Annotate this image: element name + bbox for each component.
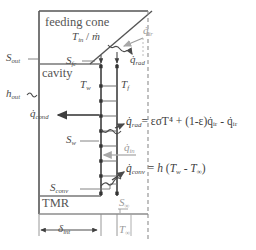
label-s-out-sub: out [12, 57, 21, 64]
label-q-in: q̇in [124, 142, 135, 153]
label-t-inf-sub: ∞ [125, 229, 130, 236]
equation-convection-lhs-sub: conv [132, 168, 145, 176]
label-q-ir: q̇ir [143, 25, 153, 36]
s-inf-leader [118, 209, 128, 213]
label-h-out-sub: out [12, 93, 21, 100]
label-q-rad-cone-sub: rad [136, 59, 145, 66]
label-s-inf-base: S [119, 196, 125, 208]
label-mass-flow-rate: ṁ [92, 30, 100, 42]
label-s-fc: Sfc [66, 55, 76, 66]
label-h-out: hout [6, 88, 20, 99]
label-q-in-base: q̇ [124, 141, 130, 153]
label-t-f: Tf [121, 79, 129, 90]
label-s-out: Sout [6, 52, 20, 63]
label-t-w-sub: w [86, 84, 90, 91]
q-rad-wall-squiggle [101, 124, 124, 134]
diagram-canvas: feeding cone cavity TMR Sout hout Tin / … [0, 0, 256, 250]
label-q-ir-base: q̇ [143, 24, 149, 36]
label-h-out-base: h [6, 87, 12, 99]
label-s-conv-sub: conv [56, 187, 69, 194]
q-conv-squiggle [101, 172, 124, 186]
label-delta-int-sub: int [63, 228, 70, 235]
equation-convection-lhs-base: q̇ [126, 162, 132, 174]
label-q-cond-base: q̇ [30, 107, 36, 119]
label-s-w-sub: w [72, 139, 76, 146]
label-t-w: Tw [80, 79, 91, 90]
label-t-f-sub: f [127, 84, 129, 91]
feeding-inflow-arrows [101, 52, 117, 63]
delta-int-dimension [39, 214, 131, 236]
label-q-in-sub: in [130, 147, 135, 154]
region-label-feeding-cone: feeding cone [45, 16, 109, 29]
equation-convection: q̇conv = h (Tw - T∞) [126, 163, 206, 175]
label-s-fc-sub: fc [72, 60, 77, 67]
equation-radiation: q̇rad= εσT⁴ + (1-ε)q̇ᵢᵣ - q̇ᵢᵣ [126, 116, 237, 128]
label-q-ir-sub: ir [149, 30, 153, 37]
label-q-rad-cone: q̇rad [130, 54, 145, 65]
label-delta-int: δint [58, 223, 70, 234]
label-t-in-separator: / [83, 30, 92, 42]
label-t-in-mdot: Tin / ṁ [72, 31, 100, 42]
label-q-rad-cone-base: q̇ [130, 53, 136, 65]
label-t-in-sub: in [78, 36, 83, 43]
equation-radiation-lhs-base: q̇ [126, 115, 132, 127]
region-label-tmr: TMR [42, 197, 69, 210]
label-s-conv-base: S [50, 181, 56, 193]
equation-convection-rhs: = h (Tw - T∞) [145, 162, 206, 174]
label-s-out-base: S [6, 51, 12, 63]
label-s-inf: S∞ [119, 197, 129, 208]
label-s-conv: Sconv [50, 182, 68, 193]
label-s-w: Sw [66, 134, 76, 145]
label-q-cond-sub: cond [36, 113, 49, 120]
h-out-squiggle [27, 93, 37, 97]
region-label-cavity: cavity [42, 67, 73, 80]
label-s-w-base: S [66, 133, 72, 145]
equation-radiation-rhs: = εσT⁴ + (1-ε)q̇ᵢᵣ - q̇ᵢᵣ [141, 115, 237, 127]
wall-node-rungs [101, 86, 117, 176]
label-t-inf: T∞ [119, 224, 130, 235]
label-s-inf-sub: ∞ [125, 202, 130, 209]
equation-radiation-lhs-sub: rad [132, 121, 142, 129]
label-s-fc-base: S [66, 54, 72, 66]
label-q-cond: q̇cond [30, 108, 49, 119]
